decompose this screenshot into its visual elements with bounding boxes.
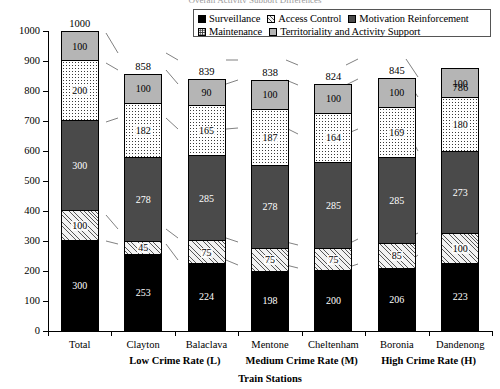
segment-value-label: 75 [201, 248, 213, 258]
bar-segment[interactable]: 75 [314, 249, 352, 272]
bar-segment[interactable]: 169 [378, 108, 416, 159]
bar-segment[interactable]: 200 [61, 61, 99, 121]
segment-value-label: 200 [325, 296, 342, 306]
bar-segment[interactable]: 100 [61, 211, 99, 241]
bar-segment[interactable]: 75 [188, 241, 226, 264]
x-axis-line [48, 331, 492, 332]
bar-boronia[interactable]: 20685285169100 [378, 78, 416, 332]
bar-segment[interactable]: 100 [441, 234, 479, 264]
bar-segment[interactable]: 100 [378, 78, 416, 108]
bar-cheltenham[interactable]: 20075285164100 [314, 84, 352, 331]
segment-value-label: 100 [135, 84, 152, 94]
bar-dandenong[interactable]: 223100273180100 [441, 95, 479, 331]
bar-segment[interactable]: 206 [378, 269, 416, 331]
bar-segment[interactable]: 300 [61, 121, 99, 211]
segment-value-label: 273 [452, 188, 469, 198]
bar-segment[interactable]: 187 [251, 110, 289, 166]
bar-segment[interactable]: 164 [314, 114, 352, 163]
bar-segment[interactable]: 223 [441, 264, 479, 331]
bar-segment[interactable]: 100 [251, 80, 289, 110]
bar-total-label: 824 [303, 71, 363, 82]
segment-value-label: 90 [201, 88, 213, 98]
bar-segment[interactable]: 45 [124, 242, 162, 256]
segment-divider [314, 270, 352, 271]
bar-total-label: 858 [113, 61, 173, 72]
bar-segment[interactable]: 100 [124, 74, 162, 104]
bar-total-label: 1000 [50, 18, 110, 29]
x-tick-mark [111, 331, 112, 336]
x-tick-mark [365, 331, 366, 336]
segment-value-label: 285 [198, 194, 215, 204]
y-tick-label: 800 [0, 86, 40, 96]
segment-divider [124, 103, 162, 104]
x-tick-label-dandenong: Dandenong [420, 339, 500, 350]
bar-clayton[interactable]: 25345278182100 [124, 74, 162, 331]
legend-swatch-motivation-reinforcement-icon [348, 15, 356, 23]
bar-segment[interactable]: 278 [251, 166, 289, 249]
segment-divider [251, 165, 289, 166]
bar-segment[interactable]: 182 [124, 104, 162, 159]
y-tick-label: 0 [0, 326, 40, 336]
segment-divider [378, 107, 416, 108]
bar-segment[interactable]: 273 [441, 152, 479, 234]
segment-divider [188, 240, 226, 241]
chart-root: Overall Activity Support Differences [0, 0, 500, 389]
segment-value-label: 100 [452, 79, 469, 89]
bar-total-label: 839 [177, 66, 237, 77]
bar-mentone[interactable]: 19875278187100 [251, 80, 289, 331]
bar-segment[interactable]: 285 [314, 163, 352, 249]
segment-value-label: 165 [198, 126, 215, 136]
segment-divider [314, 162, 352, 163]
bar-total-label: 845 [367, 65, 427, 76]
legend-item-surveillance: Surveillance [198, 13, 260, 24]
segment-divider [314, 248, 352, 249]
segment-value-label: 75 [264, 255, 276, 265]
bar-segment[interactable]: 75 [251, 249, 289, 272]
segment-divider [441, 151, 479, 152]
segment-divider [441, 263, 479, 264]
segment-value-label: 300 [71, 161, 88, 171]
segment-value-label: 100 [262, 90, 279, 100]
y-tick-label: 200 [0, 266, 40, 276]
bar-segment[interactable]: 224 [188, 264, 226, 331]
segment-divider [61, 210, 99, 211]
legend-swatch-access-control-icon [267, 15, 275, 23]
bar-total[interactable]: 300100300200100 [61, 31, 99, 331]
bar-balaclava[interactable]: 2247528516590 [188, 79, 226, 331]
bar-segment[interactable]: 200 [314, 271, 352, 331]
segment-divider [441, 97, 479, 98]
group-label-high: High Crime Rate (H) [354, 355, 500, 366]
bar-segment[interactable]: 198 [251, 272, 289, 331]
bar-segment[interactable]: 85 [378, 244, 416, 270]
legend-swatch-surveillance-icon [198, 15, 206, 23]
bar-segment[interactable]: 180 [441, 98, 479, 152]
bar-segment[interactable]: 278 [124, 158, 162, 241]
segment-divider [188, 263, 226, 264]
bar-segment[interactable]: 100 [61, 31, 99, 61]
bar-segment[interactable]: 90 [188, 79, 226, 106]
segment-value-label: 198 [262, 296, 279, 306]
segment-value-label: 300 [71, 281, 88, 291]
bar-segment[interactable]: 285 [188, 156, 226, 242]
segment-value-label: 100 [388, 88, 405, 98]
segment-divider [251, 109, 289, 110]
segment-value-label: 100 [452, 244, 469, 254]
segment-value-label: 278 [262, 202, 279, 212]
legend-label-surveillance: Surveillance [209, 13, 260, 24]
segment-divider [251, 271, 289, 272]
bar-segment[interactable]: 100 [314, 84, 352, 114]
segment-value-label: 206 [388, 295, 405, 305]
segment-value-label: 200 [71, 86, 88, 96]
segment-divider [378, 243, 416, 244]
y-tick-label: 100 [0, 296, 40, 306]
bar-segment[interactable]: 165 [188, 106, 226, 156]
bar-total-label: 838 [240, 67, 300, 78]
x-tick-mark [302, 331, 303, 336]
x-tick-mark [48, 331, 49, 336]
bar-segment[interactable]: 300 [61, 241, 99, 331]
segment-divider [378, 157, 416, 158]
segment-divider [188, 105, 226, 106]
bar-segment[interactable]: 285 [378, 158, 416, 244]
bar-segment[interactable]: 253 [124, 255, 162, 331]
segment-value-label: 45 [137, 243, 149, 253]
